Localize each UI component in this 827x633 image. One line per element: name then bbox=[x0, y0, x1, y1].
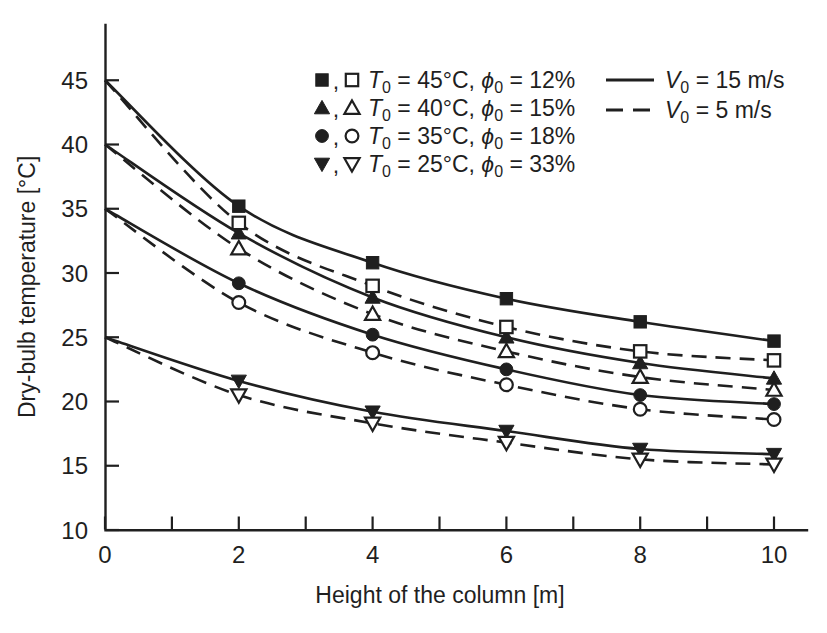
data-point-T35-V15 bbox=[366, 328, 379, 341]
y-axis-title: Dry-bulb temperature [°C] bbox=[14, 156, 41, 418]
data-point-T35-V15 bbox=[232, 277, 245, 290]
y-tick-label: 15 bbox=[61, 452, 88, 479]
legend-line-label: V0 = 15 m/s bbox=[665, 67, 784, 96]
legend-marker-open bbox=[344, 100, 359, 113]
data-point-T45-V5 bbox=[233, 217, 245, 229]
legend-entry-label: T0 = 45°C, ϕ0 = 12% bbox=[368, 67, 575, 96]
temperature-chart: 10152025303540450246810,T0 = 45°C, ϕ0 = … bbox=[0, 0, 827, 633]
data-point-T35-V5 bbox=[232, 296, 245, 309]
y-tick-label: 10 bbox=[61, 517, 88, 544]
legend-marker-open bbox=[346, 74, 358, 86]
data-point-T45-V5 bbox=[500, 321, 512, 333]
data-point-T35-V5 bbox=[500, 378, 513, 391]
data-point-T45-V15 bbox=[634, 316, 646, 328]
legend-entry-label: T0 = 40°C, ϕ0 = 15% bbox=[368, 95, 575, 124]
data-point-T40-V5 bbox=[231, 241, 246, 254]
legend-entry-label: T0 = 25°C, ϕ0 = 33% bbox=[368, 151, 575, 180]
data-point-T35-V15 bbox=[768, 398, 781, 411]
y-tick-label: 40 bbox=[61, 131, 88, 158]
data-point-T35-V5 bbox=[366, 346, 379, 359]
legend-marker-filled bbox=[316, 130, 329, 143]
legend-marker-open bbox=[346, 130, 359, 143]
x-tick-label: 10 bbox=[761, 541, 788, 568]
x-axis-title: Height of the column [m] bbox=[105, 582, 775, 609]
legend-marker-open bbox=[344, 158, 359, 171]
data-point-T45-V15 bbox=[233, 200, 245, 212]
y-tick-label: 25 bbox=[61, 324, 88, 351]
legend-marker-separator: , bbox=[333, 96, 339, 122]
data-point-T45-V15 bbox=[500, 293, 512, 305]
legend-entry-label: T0 = 35°C, ϕ0 = 18% bbox=[368, 123, 575, 152]
x-tick-label: 2 bbox=[232, 541, 245, 568]
data-point-T45-V5 bbox=[634, 345, 646, 357]
curve-T25-V5 bbox=[105, 337, 774, 464]
curve-T35-V15 bbox=[105, 209, 774, 404]
data-point-T45-V15 bbox=[768, 335, 780, 347]
legend-marker-separator: , bbox=[333, 152, 339, 178]
curve-T35-V5 bbox=[105, 209, 774, 420]
data-point-T45-V5 bbox=[366, 280, 378, 292]
y-tick-label: 35 bbox=[61, 195, 88, 222]
x-tick-label: 0 bbox=[98, 541, 111, 568]
legend-marker-filled bbox=[314, 158, 329, 171]
legend-marker-filled bbox=[314, 100, 329, 113]
legend-marker-filled bbox=[316, 74, 328, 86]
y-tick-label: 20 bbox=[61, 388, 88, 415]
y-tick-label: 45 bbox=[61, 67, 88, 94]
data-point-T35-V5 bbox=[768, 413, 781, 426]
data-point-T45-V15 bbox=[366, 257, 378, 269]
data-point-T45-V5 bbox=[768, 354, 780, 366]
x-tick-label: 8 bbox=[634, 541, 647, 568]
data-point-T40-V5 bbox=[499, 344, 514, 357]
legend-marker-separator: , bbox=[333, 124, 339, 150]
x-tick-label: 6 bbox=[500, 541, 513, 568]
data-point-T25-V5 bbox=[499, 437, 514, 450]
data-point-T35-V15 bbox=[634, 389, 647, 402]
data-point-T35-V15 bbox=[500, 363, 513, 376]
y-tick-label: 30 bbox=[61, 260, 88, 287]
x-tick-label: 4 bbox=[366, 541, 379, 568]
figure-container: 10152025303540450246810,T0 = 45°C, ϕ0 = … bbox=[0, 0, 827, 633]
legend-marker-separator: , bbox=[333, 68, 339, 94]
data-point-T35-V5 bbox=[634, 403, 647, 416]
legend-line-label: V0 = 5 m/s bbox=[665, 97, 772, 126]
